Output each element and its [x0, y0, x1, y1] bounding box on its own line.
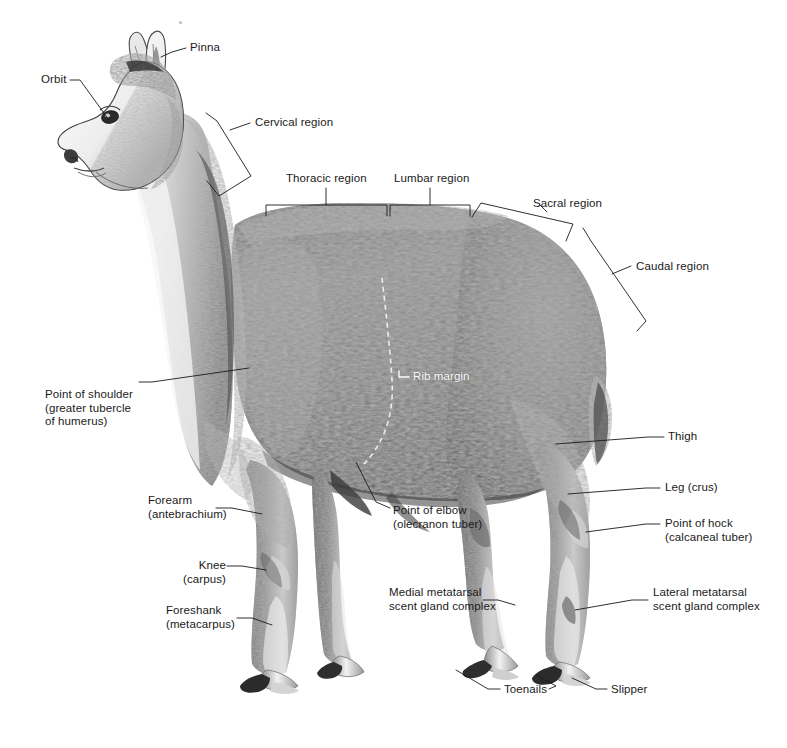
- label-forearm-line1: Forearm: [148, 494, 216, 508]
- label-thigh: Thigh: [668, 430, 697, 444]
- label-caudal-region: Caudal region: [636, 260, 709, 274]
- label-point-of-shoulder-line2: (greater tubercle: [45, 402, 133, 416]
- label-point-of-hock: Point of hock (calcaneal tuber): [665, 517, 752, 544]
- anatomy-figure: Orbit Pinna Cervical region Thoracic reg…: [0, 0, 787, 748]
- scan-artifact-speck: [179, 21, 182, 24]
- label-leg-crus: Leg (crus): [665, 481, 718, 495]
- label-point-of-elbow: Point of elbow (olecranon tuber): [393, 504, 482, 531]
- label-slipper: Slipper: [611, 683, 648, 697]
- label-point-of-hock-line2: (calcaneal tuber): [665, 531, 752, 545]
- label-point-of-shoulder-line3: of humerus): [45, 415, 133, 429]
- leader-point-of-hock: [586, 524, 660, 532]
- label-point-of-shoulder: Point of shoulder (greater tubercle of h…: [45, 388, 133, 429]
- leader-caudal: [612, 266, 631, 274]
- label-lateral-metatarsal-line2: scent gland complex: [653, 600, 760, 614]
- tail: [589, 376, 612, 466]
- label-rib-margin: Rib margin: [413, 370, 470, 384]
- label-medial-metatarsal: Medial metatarsal scent gland complex: [389, 586, 496, 613]
- label-lateral-metatarsal: Lateral metatarsal scent gland complex: [653, 586, 760, 613]
- label-toenails: Toenails: [504, 683, 547, 697]
- label-cervical-region: Cervical region: [255, 116, 333, 130]
- label-knee-line1: Knee: [170, 559, 226, 573]
- label-point-of-elbow-line1: Point of elbow: [393, 504, 482, 518]
- label-foreshank: Foreshank (metacarpus): [166, 604, 235, 631]
- label-knee: Knee (carpus): [170, 559, 226, 586]
- leader-cervical: [230, 123, 250, 130]
- label-medial-metatarsal-line2: scent gland complex: [389, 600, 496, 614]
- label-point-of-shoulder-line1: Point of shoulder: [45, 388, 133, 402]
- label-sacral-region: Sacral region: [533, 197, 602, 211]
- label-foreshank-line2: (metacarpus): [166, 618, 235, 632]
- label-pinna: Pinna: [190, 41, 220, 55]
- label-orbit: Orbit: [41, 73, 66, 87]
- label-forearm-line2: (antebrachium): [148, 508, 216, 522]
- label-point-of-elbow-line2: (olecranon tuber): [393, 518, 482, 532]
- label-thoracic-region: Thoracic region: [286, 172, 367, 186]
- label-knee-line2: (carpus): [170, 573, 226, 587]
- label-forearm: Forearm (antebrachium): [148, 494, 216, 521]
- label-medial-metatarsal-line1: Medial metatarsal: [389, 586, 496, 600]
- llama-illustration: [0, 0, 787, 748]
- label-lumbar-region: Lumbar region: [394, 172, 469, 186]
- label-point-of-hock-line1: Point of hock: [665, 517, 752, 531]
- label-foreshank-line1: Foreshank: [166, 604, 235, 618]
- label-lateral-metatarsal-line1: Lateral metatarsal: [653, 586, 760, 600]
